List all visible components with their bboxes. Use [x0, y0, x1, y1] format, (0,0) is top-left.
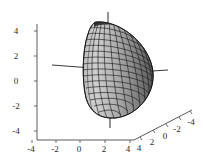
z-tick-label: 0 [14, 76, 19, 86]
x-tick-label: -4 [27, 144, 35, 154]
plot-canvas: 4 2 0 -2 -4 -4 -2 0 2 4 4 2 0 -2 -4 [0, 0, 203, 164]
x-tick-label: 0 [77, 144, 82, 154]
y-tick-label: -2 [173, 124, 181, 134]
y-tick-label: 4 [137, 143, 142, 153]
x-tick-label: -2 [51, 144, 59, 154]
z-tick-label: -4 [12, 126, 20, 136]
z-tick-label: 2 [14, 51, 19, 61]
z-tick-label: -2 [12, 101, 20, 111]
y-tick-label: 0 [163, 131, 168, 141]
z-tick-label: 4 [14, 26, 19, 36]
y-tick-label: -4 [187, 117, 195, 127]
y-tick-label: 2 [150, 137, 155, 147]
x-tick-label: 4 [126, 144, 131, 154]
surface-plot-figure: 4 2 0 -2 -4 -4 -2 0 2 4 4 2 0 -2 -4 [0, 0, 203, 164]
x-tick-label: 2 [102, 144, 107, 154]
